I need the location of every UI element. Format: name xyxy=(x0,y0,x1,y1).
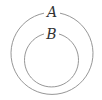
venn-diagram: A B xyxy=(0,0,102,100)
set-a-label: A xyxy=(45,4,57,20)
set-b-label: B xyxy=(45,26,56,42)
